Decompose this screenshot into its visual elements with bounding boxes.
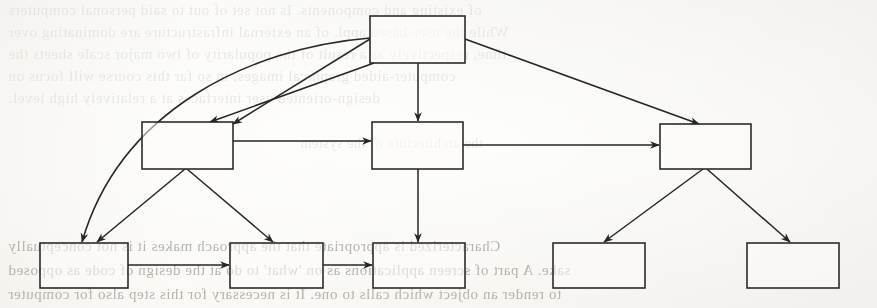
scanned-page: of existing and components. Is not set o… — [0, 0, 877, 308]
diagram-node — [370, 16, 465, 63]
diagram-node — [660, 124, 751, 169]
diagram-node — [230, 243, 323, 288]
diagram-edge — [465, 39, 699, 124]
diagram-edge — [210, 63, 374, 122]
diagram-node — [142, 122, 233, 169]
diagram-node — [747, 243, 839, 288]
diagram-edge — [233, 39, 370, 124]
diagram-edge — [187, 169, 273, 242]
diagram-nodes — [40, 16, 839, 288]
block-diagram — [0, 0, 877, 308]
diagram-edge — [604, 169, 703, 242]
diagram-node — [553, 243, 645, 288]
diagram-node — [373, 243, 465, 288]
diagram-edge — [97, 169, 185, 242]
diagram-edge — [707, 169, 790, 242]
diagram-node — [372, 122, 463, 169]
diagram-node — [40, 243, 128, 288]
